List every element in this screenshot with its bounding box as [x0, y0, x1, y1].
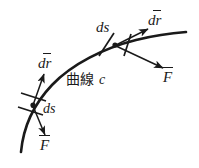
dr-lower-symbol: dr: [38, 56, 51, 71]
vector-bar-icon: [153, 10, 161, 11]
force-vector-upper: [116, 46, 163, 68]
label-dr-lower: dr: [38, 56, 51, 71]
curve-name-symbol: c: [99, 72, 105, 87]
label-force-upper-text: F: [163, 69, 172, 85]
label-ds-upper-text: ds: [96, 19, 109, 35]
dr-upper-symbol: dr: [148, 13, 161, 28]
label-ds-upper: ds: [96, 20, 109, 35]
label-dr-lower-text: dr: [38, 55, 51, 71]
curve-name-cjk: 曲線: [66, 71, 94, 87]
label-dr-upper-text: dr: [148, 12, 161, 28]
label-ds-lower-text: ds: [43, 101, 55, 116]
label-dr-upper: dr: [148, 13, 161, 28]
curve-name-label: 曲線c: [66, 71, 105, 87]
ds-tick-upper-start: [99, 33, 114, 56]
label-force-lower-text: F: [40, 137, 49, 153]
vector-line-integral-figure: ds dr F dr ds F 曲線c: [0, 0, 199, 168]
force-lower-symbol: F: [40, 138, 49, 153]
vector-bar-icon: [162, 67, 173, 68]
label-force-lower: F: [40, 138, 49, 153]
label-ds-lower: ds: [43, 102, 55, 116]
force-upper-symbol: F: [163, 70, 172, 85]
vector-bar-icon: [43, 53, 51, 54]
label-force-upper: F: [163, 70, 172, 85]
vector-bar-icon: [39, 135, 50, 136]
